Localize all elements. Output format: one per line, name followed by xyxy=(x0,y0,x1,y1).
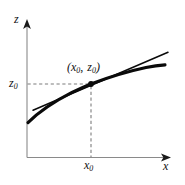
z0-subscript: 0 xyxy=(14,82,18,91)
point-z-subscript: 0 xyxy=(92,66,96,75)
z-axis-label: z xyxy=(14,13,19,25)
point-x-subscript: 0 xyxy=(76,66,80,75)
tangency-point-label: (x0, z0) xyxy=(67,61,100,73)
x0-subscript: 0 xyxy=(89,164,93,173)
x0-tick-label: x0 xyxy=(84,159,93,171)
z0-base: z xyxy=(9,76,14,90)
z0-tick-label: z0 xyxy=(9,77,18,89)
tangency-point-dot xyxy=(88,81,94,87)
tangent-line-figure: z x z0 x0 (x0, z0) xyxy=(0,0,185,185)
figure-canvas xyxy=(0,0,185,185)
x-axis-label: x xyxy=(163,160,168,172)
point-close-paren: ) xyxy=(96,60,100,74)
